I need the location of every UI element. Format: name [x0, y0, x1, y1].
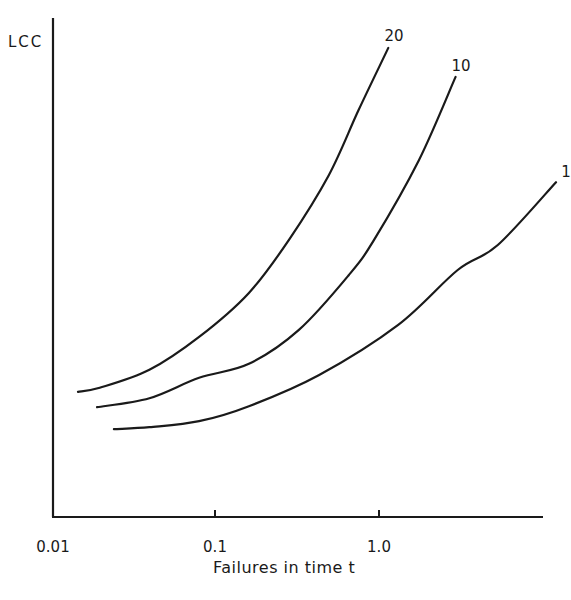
curve-1: [114, 182, 556, 429]
curve-10: [97, 77, 456, 407]
x-tick-label-0.1: 0.1: [203, 540, 227, 555]
curves: [78, 48, 556, 429]
x-axis-label: Failures in time t: [213, 560, 355, 576]
y-axis-label: LCC: [8, 35, 43, 50]
curve-label-1: 1: [561, 165, 571, 180]
curve-20: [78, 48, 388, 392]
curve-label-20: 20: [384, 29, 403, 44]
x-tick-label-1.0: 1.0: [367, 540, 391, 555]
x-tick-label-0.01: 0.01: [36, 540, 69, 555]
curve-label-10: 10: [451, 59, 470, 74]
axes: [52, 18, 543, 517]
